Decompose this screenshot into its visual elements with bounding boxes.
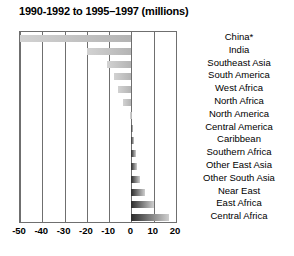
category-label: Other South Asia — [186, 172, 292, 185]
bar-row — [20, 70, 176, 83]
category-label: West Africa — [186, 82, 292, 95]
bar-row — [20, 45, 176, 58]
category-label: South America — [186, 69, 292, 82]
x-tick-label: -40 — [34, 225, 48, 236]
category-label: Southern Africa — [186, 146, 292, 159]
bar — [131, 189, 144, 196]
gridline-20 — [176, 32, 177, 222]
category-label: North Africa — [186, 95, 292, 108]
category-label: Near East — [186, 185, 292, 198]
bar-row — [20, 160, 176, 173]
bar — [131, 125, 132, 132]
bar — [87, 48, 132, 55]
bar-row — [20, 58, 176, 71]
category-label: India — [186, 44, 292, 57]
plot-area — [19, 31, 177, 223]
category-label: Caribbean — [186, 133, 292, 146]
bar — [131, 201, 153, 208]
bar — [131, 163, 137, 170]
bar — [131, 176, 140, 183]
x-tick-label: -30 — [57, 225, 71, 236]
category-label: Southeast Asia — [186, 57, 292, 70]
bar — [131, 150, 135, 157]
bar-row — [20, 147, 176, 160]
category-label: Other East Asia — [186, 159, 292, 172]
category-label: China* — [186, 31, 292, 44]
bar — [123, 99, 132, 106]
bar-row — [20, 96, 176, 109]
bar-row — [20, 134, 176, 147]
bar-row — [20, 211, 176, 224]
x-tick-label: -20 — [79, 225, 93, 236]
bar-row — [20, 83, 176, 96]
category-label: East Africa — [186, 197, 292, 210]
bar — [118, 86, 131, 93]
bar — [130, 112, 131, 119]
bar — [114, 73, 132, 80]
bar-row — [20, 32, 176, 45]
category-labels: China*IndiaSoutheast AsiaSouth AmericaWe… — [186, 31, 292, 223]
bar — [131, 214, 169, 221]
x-tick-label: 20 — [170, 225, 181, 236]
x-axis: -50-40-30-20-1001020 — [19, 225, 177, 241]
chart-title: 1990-1992 to 1995–1997 (millions) — [19, 5, 189, 17]
bar — [107, 61, 132, 68]
x-tick-label: 0 — [128, 225, 133, 236]
x-tick-label: 10 — [147, 225, 158, 236]
bar — [131, 137, 134, 144]
bar-row — [20, 198, 176, 211]
bar-row — [20, 109, 176, 122]
bar — [20, 35, 131, 42]
category-label: Central Africa — [186, 210, 292, 223]
bar-row — [20, 122, 176, 135]
x-tick-label: -10 — [101, 225, 115, 236]
chart-figure: 1990-1992 to 1995–1997 (millions) -50-40… — [0, 0, 294, 256]
category-label: North America — [186, 108, 292, 121]
category-label: Central America — [186, 121, 292, 134]
bar-rows — [20, 32, 176, 222]
x-tick-label: -50 — [12, 225, 26, 236]
bar-row — [20, 186, 176, 199]
bar-row — [20, 173, 176, 186]
